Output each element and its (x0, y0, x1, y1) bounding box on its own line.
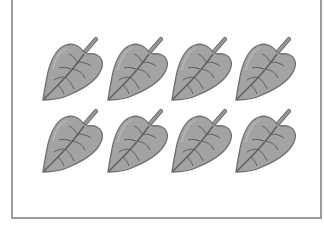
leaf-icon (168, 108, 234, 176)
leaf-icon (232, 108, 298, 176)
leaf-icon (39, 108, 105, 176)
leaf-icon (168, 36, 234, 104)
leaf-icon (39, 36, 105, 104)
leaf-icon (232, 36, 298, 104)
leaf-icon (104, 36, 170, 104)
leaf-icon (104, 108, 170, 176)
leaf-grid (0, 0, 324, 234)
